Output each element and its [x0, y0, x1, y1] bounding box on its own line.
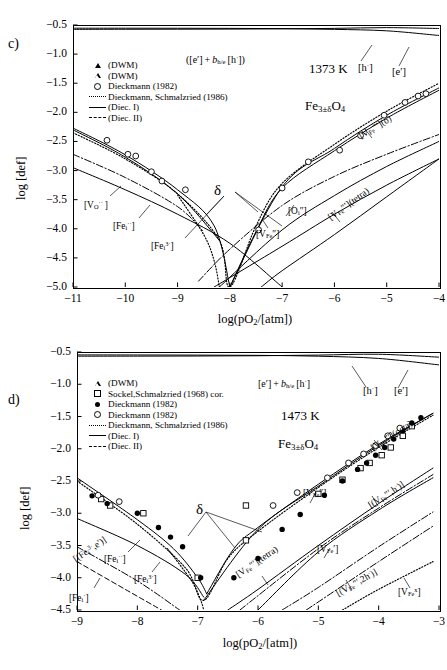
datapoint-d-5-0	[95, 492, 101, 498]
panel-d-electron-label: [e′]	[394, 385, 408, 396]
annotation-leader-line	[235, 192, 258, 212]
x-tick-c-5: −6	[319, 292, 349, 304]
datapoint-c-2-4	[159, 178, 165, 184]
datapoint-c-0-9	[187, 17, 194, 23]
panel-d-label-fei3: [Fei3·]	[134, 573, 157, 584]
compound-sub-c: 3±δ	[318, 104, 331, 114]
datapoint-c-0-4	[119, 17, 126, 23]
annotation-leader-line	[262, 576, 268, 585]
datapoint-c-0-1	[93, 17, 100, 23]
datapoint-d-3-3	[156, 525, 161, 530]
datapoint-c-0-6	[135, 17, 142, 23]
legend-symbol-solid-line	[88, 107, 107, 108]
xlabel-post-d: /[atm])	[262, 636, 297, 650]
datapoint-d-4-2	[279, 527, 284, 532]
y-tick-c-1: −1.0	[33, 47, 67, 59]
panel-d-label-fei1: [Fei·]	[69, 592, 89, 603]
legend-symbol-open-square	[88, 390, 107, 397]
xlabel-post-c: /[atm])	[257, 312, 292, 326]
y-tick-c-3: −2.0	[33, 105, 67, 117]
x-tick-c-4: −7	[267, 292, 297, 304]
curve-c-6	[230, 88, 439, 287]
datapoint-c-0-7	[143, 17, 150, 23]
legend-symbol-dashdot-line	[88, 446, 107, 447]
datapoint-c-1-0	[268, 17, 274, 23]
datapoint-d-2-6	[379, 453, 384, 458]
legend-symbol-open-circle	[88, 83, 107, 90]
compound-sub2-c: 4	[341, 104, 345, 114]
xlabel-pre-c: log(pO	[218, 312, 253, 326]
y-tick-c-5: −3.0	[33, 164, 67, 176]
legend-symbol-filled-triangle	[88, 63, 107, 68]
y-tick-c-4: −2.5	[33, 134, 67, 146]
legend-symbol-dashdot-line	[88, 117, 107, 118]
datapoint-d-0-9	[391, 341, 397, 347]
datapoint-c-1-5	[389, 17, 395, 23]
legend-entry-c-5: (Diec. II)	[88, 113, 228, 124]
y-tick-d-0: −0.5	[37, 345, 71, 357]
y-tick-d-8: −4.5	[37, 603, 71, 615]
legend-symbol-filled-circle	[88, 402, 107, 407]
datapoint-c-3-7	[415, 93, 421, 99]
datapoint-d-0-10	[400, 341, 406, 347]
panel-d-y-axis-label: log [def]	[18, 487, 33, 530]
datapoint-d-0-3	[170, 341, 176, 347]
curve-c-7	[73, 168, 282, 287]
datapoint-c-2-0	[104, 137, 110, 143]
compound-fe-d: Fe	[278, 436, 291, 451]
datapoint-d-0-13	[427, 341, 433, 347]
panel-d-temperature: 1473 K	[281, 408, 320, 424]
datapoint-d-0-6	[291, 341, 297, 347]
panel-c-hole-label: [h·]	[358, 62, 373, 73]
annotation-leader-line	[352, 366, 366, 387]
datapoint-c-1-1	[300, 17, 306, 23]
x-tick-d-5: −4	[364, 615, 394, 627]
panel-c-label-vfe2: [VFe″]	[256, 229, 279, 239]
annotation-leader-line	[262, 219, 268, 228]
panel-c-label-vo: [VO·· ]	[84, 199, 108, 210]
y-tick-d-6: −3.5	[37, 539, 71, 551]
legend-symbol-open-triangle	[88, 73, 107, 78]
xlabel-pre-d: log(pO	[223, 636, 258, 650]
curve-c-9	[178, 195, 220, 287]
curve-c-0	[73, 20, 439, 22]
datapoint-c-3-3	[337, 147, 343, 153]
datapoint-d-0-0	[89, 341, 95, 347]
datapoint-d-5-1	[116, 499, 122, 505]
datapoint-c-2-3	[149, 169, 155, 175]
panel-d-delta-label: δ	[196, 501, 203, 518]
x-tick-c-1: −10	[110, 292, 140, 304]
datapoint-d-4-7	[364, 460, 369, 465]
datapoint-d-0-7	[339, 341, 345, 347]
panel-c-electron-hole-sum: ([e′] + bh/e [h·])	[186, 54, 245, 65]
annotation-leader-line	[361, 45, 372, 61]
datapoint-d-4-6	[355, 467, 360, 472]
datapoint-d-2-1	[243, 503, 248, 508]
panel-d-label-vfe2: [VFe″]	[303, 488, 326, 498]
annotation-leader-line	[185, 196, 224, 238]
datapoint-c-0-10	[208, 17, 215, 23]
datapoint-c-0-5	[127, 17, 134, 23]
x-tick-d-6: −3	[424, 615, 447, 627]
annotation-leader-line	[139, 205, 150, 218]
panel-c-electron-label: [e′]	[392, 66, 406, 77]
legend-symbol-solid-line	[88, 435, 107, 436]
x-tick-c-0: −11	[58, 292, 88, 304]
panel-c-y-axis-label: log [def]	[14, 157, 29, 200]
curve-c-11	[214, 159, 439, 287]
panel-d-label-fei2: [Fei··]	[104, 553, 126, 564]
panel-c: c) log [def] log(pO2/[atm]) (DWM)(DWM)Di…	[0, 0, 447, 340]
y-tick-d-5: −3.0	[37, 506, 71, 518]
panel-c-canvas	[0, 0, 447, 340]
annotation-leader-line	[152, 562, 160, 572]
datapoint-d-5-2	[270, 503, 276, 509]
datapoint-d-3-2	[135, 511, 140, 516]
y-tick-c-8: −4.5	[33, 251, 67, 263]
datapoint-c-3-6	[402, 100, 408, 106]
curve-c-14	[198, 134, 439, 281]
x-tick-d-4: −5	[303, 615, 333, 627]
curve-d-16	[77, 562, 161, 610]
datapoint-c-2-2	[133, 153, 139, 159]
datapoint-d-3-0	[89, 493, 94, 498]
x-tick-c-2: −9	[163, 292, 193, 304]
